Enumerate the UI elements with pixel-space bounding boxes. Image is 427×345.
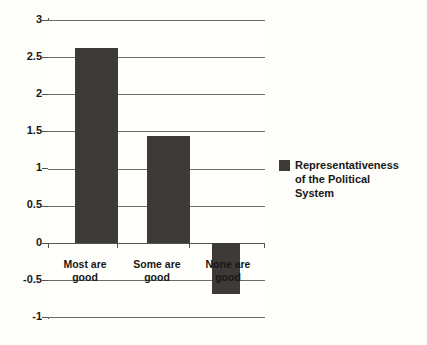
- y-tick-label: 1: [2, 161, 42, 173]
- y-axis-tick-labels: 3 2.5 2 1.5 1 0.5 0 -0.5 -1: [0, 0, 42, 345]
- y-tick-label: 0.5: [2, 198, 42, 210]
- y-tick-label: -1: [2, 310, 42, 322]
- x-axis-tick: [189, 243, 190, 248]
- y-tick-label: 2: [2, 87, 42, 99]
- legend-label: Representativeness of the Political Syst…: [295, 158, 399, 200]
- y-tick-label: 1.5: [2, 124, 42, 136]
- bar-some-are-good: [147, 136, 190, 243]
- bar-most-are-good: [75, 48, 118, 243]
- gridline: [48, 20, 265, 21]
- legend-swatch-icon: [279, 160, 290, 171]
- y-tick-label: -0.5: [2, 273, 42, 285]
- x-axis-tick: [264, 243, 265, 248]
- gridline: [48, 317, 265, 318]
- y-tick-label: 2.5: [2, 50, 42, 62]
- x-category-label-0: Most are good: [55, 258, 115, 283]
- y-tick-label: 0: [2, 236, 42, 248]
- x-axis-tick: [48, 243, 49, 248]
- legend: Representativeness of the Political Syst…: [279, 158, 419, 200]
- x-category-label-2: None are good: [198, 258, 258, 283]
- bar-chart: 3 2.5 2 1.5 1 0.5 0 -0.5 -1: [0, 0, 427, 345]
- y-tick-label: 3: [2, 13, 42, 25]
- x-axis-tick: [117, 243, 118, 248]
- x-category-label-1: Some are good: [127, 258, 187, 283]
